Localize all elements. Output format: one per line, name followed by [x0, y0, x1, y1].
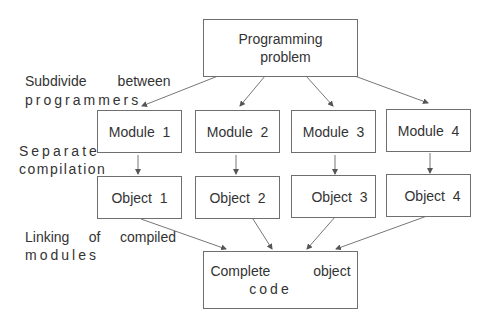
- linking-annotation-line1: Linking of compiled: [25, 228, 176, 246]
- separate-annotation-line1: Separate: [19, 142, 100, 160]
- module-1-label: Module 1: [109, 124, 170, 140]
- module-3-box: Module 3: [291, 110, 376, 153]
- object-3-label: Object 3: [299, 189, 367, 205]
- module-2-label: Module 2: [207, 124, 268, 140]
- object-3-box: Object 3: [291, 175, 376, 218]
- subdivide-annotation-line1: Subdivide between: [25, 72, 171, 90]
- linking-annotation-line2: modules: [25, 246, 99, 264]
- object-2-box: Object 2: [195, 176, 280, 219]
- complete-object-code-line2: code: [249, 280, 311, 298]
- object-1-label: Object 1: [111, 190, 167, 206]
- complete-object-code-box: Complete object code: [203, 251, 358, 309]
- separate-annotation-line2: compilation: [19, 160, 106, 178]
- module-3-label: Module 3: [303, 124, 364, 140]
- subdivide-annotation-line2: programmers: [25, 91, 141, 109]
- object-2-label: Object 2: [209, 190, 265, 206]
- programming-problem-line1: Programming: [238, 30, 322, 48]
- object-1-box: Object 1: [97, 176, 182, 219]
- module-1-box: Module 1: [97, 110, 182, 153]
- module-2-box: Module 2: [195, 110, 280, 153]
- object-4-box: Object 4: [386, 174, 471, 217]
- object-4-label: Object 4: [396, 188, 460, 204]
- module-4-label: Module 4: [398, 123, 459, 139]
- programming-problem-box: Programming problem: [203, 19, 358, 77]
- complete-object-code-line1: Complete object: [210, 262, 350, 280]
- module-4-box: Module 4: [386, 109, 471, 152]
- programming-problem-line2: problem: [250, 48, 311, 66]
